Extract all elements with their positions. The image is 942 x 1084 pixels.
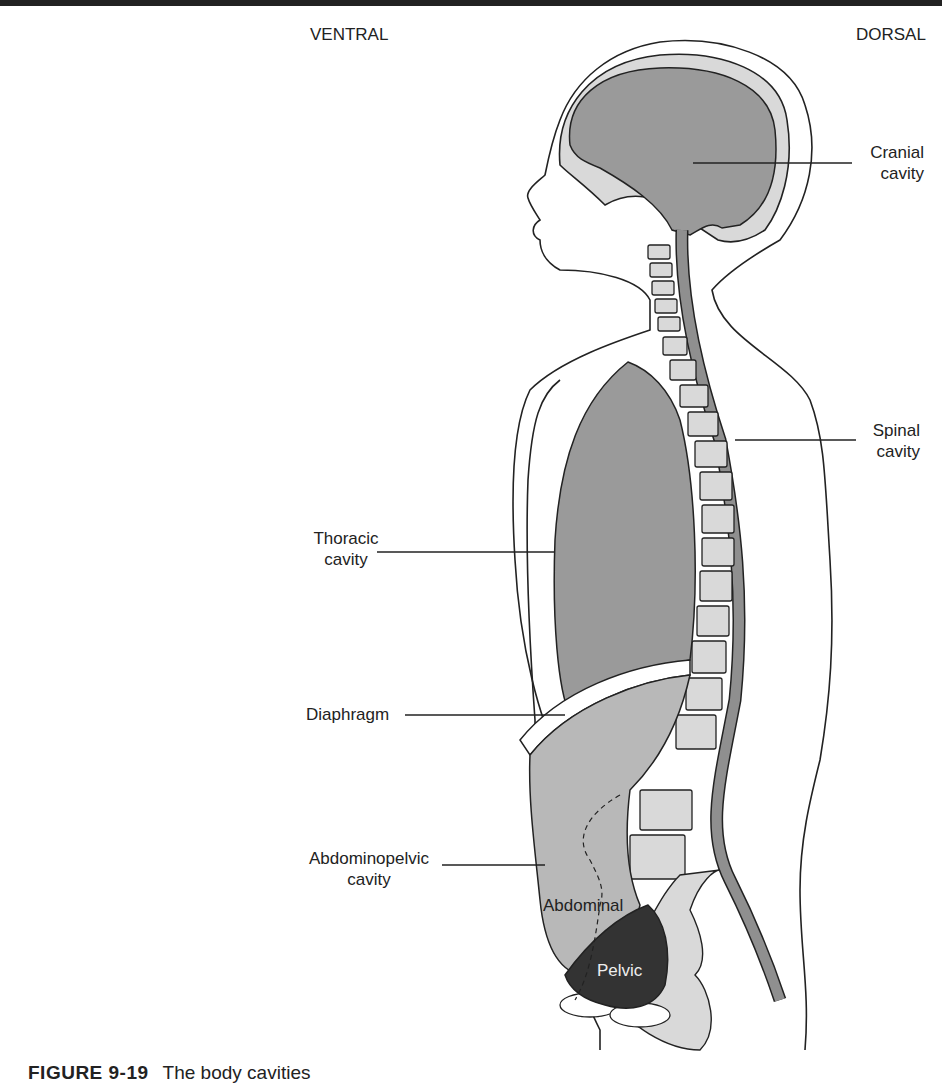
figure-caption: FIGURE 9-19The body cavities	[28, 1062, 310, 1084]
figure-number: FIGURE 9-19	[28, 1062, 149, 1083]
abdominopelvic-cavity-label: Abdominopelvic cavity	[294, 848, 444, 890]
abdominal-label: Abdominal	[543, 895, 623, 916]
cranial-label-line2: cavity	[838, 163, 924, 184]
abdominopelvic-label-line2: cavity	[294, 869, 444, 890]
spinal-cavity-label: Spinal cavity	[838, 420, 920, 462]
spinal-label-line2: cavity	[838, 441, 920, 462]
spinal-label-line1: Spinal	[838, 420, 920, 441]
thoracic-label-line2: cavity	[300, 549, 392, 570]
thoracic-cavity-label: Thoracic cavity	[300, 528, 392, 570]
figure-title: The body cavities	[163, 1062, 311, 1083]
pelvic-label: Pelvic	[597, 960, 642, 981]
diaphragm-label: Diaphragm	[306, 704, 389, 725]
cranial-label-line1: Cranial	[838, 142, 924, 163]
thoracic-label-line1: Thoracic	[300, 528, 392, 549]
abdominopelvic-label-line1: Abdominopelvic	[294, 848, 444, 869]
cranial-cavity-label: Cranial cavity	[838, 142, 924, 184]
cranial-cavity	[570, 68, 776, 235]
